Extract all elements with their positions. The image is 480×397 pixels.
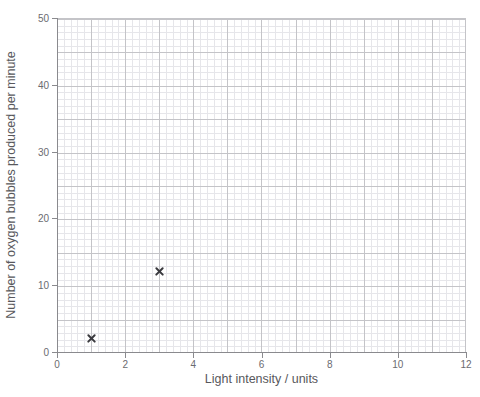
x-tick-label: 4	[191, 359, 197, 370]
x-tick-label: 2	[122, 359, 128, 370]
x-tick-mark	[398, 353, 399, 358]
x-tick-mark	[193, 353, 194, 358]
y-tick-label: 40	[38, 79, 49, 90]
x-tick-label: 8	[327, 359, 333, 370]
x-tick-mark	[262, 353, 263, 358]
graph-paper-scatter-chart: Number of oxygen bubbles produced per mi…	[0, 0, 480, 397]
x-tick-mark	[125, 353, 126, 358]
x-tick-mark	[466, 353, 467, 358]
x-tick-label: 6	[259, 359, 265, 370]
y-tick-label: 0	[43, 347, 49, 358]
y-tick-label: 20	[38, 213, 49, 224]
y-axis-title: Number of oxygen bubbles produced per mi…	[0, 18, 22, 352]
y-tick-mark	[52, 152, 57, 153]
y-tick-mark	[52, 285, 57, 286]
y-tick-mark	[52, 218, 57, 219]
x-tick-mark	[57, 353, 58, 358]
x-tick-label: 0	[54, 359, 60, 370]
y-tick-label: 10	[38, 280, 49, 291]
y-tick-mark	[52, 18, 57, 19]
y-axis-line	[57, 18, 58, 353]
y-tick-label: 50	[38, 13, 49, 24]
x-axis-title: Light intensity / units	[57, 372, 466, 386]
y-tick-mark	[52, 85, 57, 86]
x-tick-label: 10	[392, 359, 403, 370]
y-tick-label: 30	[38, 146, 49, 157]
x-tick-mark	[330, 353, 331, 358]
x-tick-label: 12	[460, 359, 471, 370]
y-tick-mark	[52, 352, 57, 353]
plot-area	[57, 18, 466, 352]
y-axis-title-text: Number of oxygen bubbles produced per mi…	[4, 51, 18, 319]
